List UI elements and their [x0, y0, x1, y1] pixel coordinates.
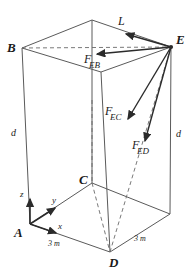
force-label-L-main: L: [118, 15, 125, 27]
axis-label-z: z: [20, 190, 24, 199]
dimension-label-base-right: 3 m: [134, 235, 146, 243]
force-label-F-EC-sub: EC: [110, 113, 122, 122]
vertical-edge-front: [101, 72, 110, 252]
force-label-F-ED-sub: ED: [137, 147, 149, 156]
vector-F-EC: [128, 47, 171, 119]
vertex-label-C: C: [79, 173, 88, 186]
force-label-F-EB-sub: EB: [89, 61, 100, 70]
vector-F-ED: [145, 47, 171, 141]
force-vectors: [97, 34, 171, 141]
axis-line-y: [30, 208, 55, 224]
vertex-label-B: B: [7, 41, 16, 54]
hidden-edge-BE: [22, 47, 171, 48]
vertex-label-E: E: [176, 33, 185, 46]
dimension-label-height-left: d: [11, 128, 16, 138]
dimension-label-height-right: d: [176, 129, 181, 139]
prism-solid-edges: [22, 20, 171, 252]
axis-label-y: y: [52, 196, 56, 205]
prism-figure: [0, 0, 196, 273]
vertical-edge-right: [170, 47, 171, 214]
dimension-label-base-front: 3 m: [48, 240, 60, 248]
vertex-label-D: D: [109, 256, 118, 269]
vertex-label-A: A: [14, 226, 23, 239]
axis-line-x: [30, 224, 56, 233]
vertex-dot-E: [169, 45, 173, 49]
axis-label-x: x: [58, 222, 62, 231]
diagram-canvas: A B C D E d d 3 m 3 m z y x L F EB F EC …: [0, 0, 196, 273]
vector-L: [126, 34, 171, 47]
